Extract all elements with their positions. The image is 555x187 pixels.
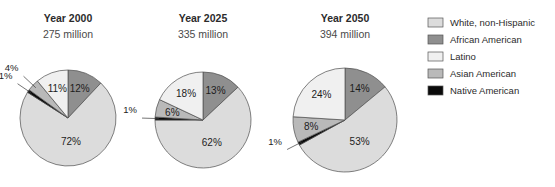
legend-item-asian-american: Asian American	[428, 68, 516, 79]
chart-subtitle-2: 394 million	[320, 28, 370, 40]
slice-label-2-0: 14%	[350, 83, 370, 94]
legend-label-african-american: African American	[450, 34, 522, 45]
legend-swatch-latino	[428, 52, 443, 61]
legend-swatch-african-american	[428, 35, 443, 44]
slice-label-1-3: 6%	[165, 107, 180, 118]
legend-swatch-asian-american	[428, 69, 443, 78]
population-pie-chart-figure: Year 2000275 million12%72%1%4%11%Year 20…	[0, 0, 555, 187]
slice-label-2-1: 53%	[350, 136, 370, 147]
legend-swatch-native-american	[428, 86, 443, 95]
slice-label-2-4: 24%	[311, 89, 331, 100]
legend-label-native-american: Native American	[450, 85, 519, 96]
slice-label-1-4: 18%	[176, 88, 196, 99]
slice-label-1-2: 1%	[123, 104, 137, 115]
slice-label-1-1: 62%	[202, 137, 222, 148]
legend-item-african-american: African American	[428, 34, 522, 45]
slice-label-0-1: 72%	[61, 136, 81, 147]
slice-label-2-2: 1%	[268, 136, 282, 147]
slice-label-0-3: 4%	[5, 62, 19, 73]
chart-subtitle-0: 275 million	[43, 28, 93, 40]
chart-title-1: Year 2025	[179, 12, 228, 24]
legend-item-native-american: Native American	[428, 85, 519, 96]
chart-title-2: Year 2050	[321, 12, 370, 24]
legend-label-asian-american: Asian American	[450, 68, 516, 79]
chart-title-0: Year 2000	[44, 12, 93, 24]
chart-subtitle-1: 335 million	[178, 28, 228, 40]
slice-label-0-0: 12%	[70, 83, 90, 94]
slice-label-1-0: 13%	[206, 85, 226, 96]
legend-label-white-non-hispanic: White, non-Hispanic	[450, 17, 535, 28]
legend-swatch-white-non-hispanic	[428, 18, 443, 27]
slice-label-2-3: 8%	[304, 121, 319, 132]
legend-label-latino: Latino	[450, 51, 476, 62]
pie-charts-group: Year 2000275 million12%72%1%4%11%Year 20…	[0, 12, 397, 172]
legend-item-latino: Latino	[428, 51, 476, 62]
slice-label-0-4: 11%	[48, 83, 67, 94]
